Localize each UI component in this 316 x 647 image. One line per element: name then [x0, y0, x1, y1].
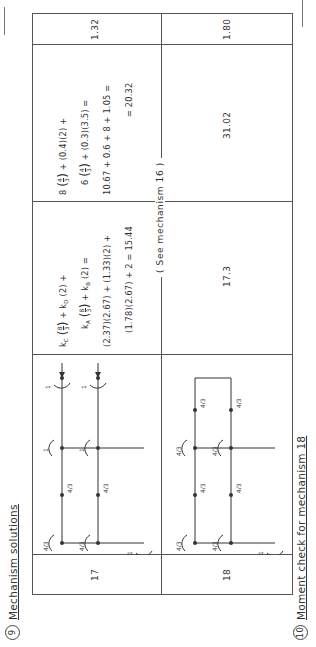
svg-text:4/3: 4/3 — [199, 483, 206, 493]
external-work-line-4: = 20.32 — [124, 83, 134, 117]
table-border-left — [32, 594, 293, 595]
svg-text:1: 1 — [80, 385, 87, 389]
svg-text:4/3: 4/3 — [235, 483, 242, 493]
column-divider — [32, 44, 293, 45]
section-title: Mechanism solutions — [7, 504, 19, 620]
svg-text:4/3: 4/3 — [66, 483, 73, 493]
svg-text:4/3: 4/3 — [211, 446, 218, 456]
see-mechanism-note: ( See mechanism 16 ) — [155, 158, 165, 277]
section-number-badge: 9 — [5, 625, 20, 640]
load-factor-ratio: 1.80 — [222, 19, 232, 40]
section-9-heading: 9Mechanism solutions — [5, 504, 20, 640]
section-number-badge: 10 — [293, 625, 308, 640]
svg-text:4/3: 4/3 — [78, 541, 85, 551]
svg-text:1: 1 — [126, 551, 133, 555]
internal-work-line-2: kA (83) + kB (2) = — [78, 257, 92, 329]
external-work-line-3: 10.67 + 0.6 + 8 + 1.05 = — [102, 85, 112, 195]
svg-text:4/3: 4/3 — [175, 541, 182, 551]
svg-text:4/3: 4/3 — [199, 398, 206, 408]
table-border-bottom — [292, 14, 293, 595]
svg-text:4/3: 4/3 — [211, 541, 218, 551]
internal-work-line-4: (1.78)(2.67) + 2 = 15.44 — [124, 226, 134, 333]
svg-text:1: 1 — [42, 448, 49, 452]
frame-diagram-17: 4/3 4/3 4/3 4/3 1 1 1 1 1 — [32, 355, 161, 555]
section-title: Moment check for mechanism 18 — [295, 436, 307, 620]
load-factor-ratio: 1.32 — [90, 19, 100, 40]
svg-text:4/3: 4/3 — [175, 446, 182, 456]
svg-text:4/3: 4/3 — [235, 398, 242, 408]
table-border-right — [32, 13, 293, 14]
external-work-line-2: 6 (43) + (0.3)(3.5) = — [78, 100, 92, 185]
edge-rule — [4, 7, 5, 35]
edge-rule — [302, 0, 303, 27]
svg-text:1: 1 — [257, 551, 264, 555]
svg-text:4/3: 4/3 — [42, 541, 49, 551]
internal-work-line-3: (2.37)(2.67) + (1.33)(2) + — [102, 235, 112, 347]
external-work-line-1: 8 (43) + (0.4)(2) + — [56, 118, 70, 195]
svg-text:1: 1 — [78, 448, 85, 452]
svg-text:1: 1 — [44, 385, 51, 389]
section-10-heading: 10Moment check for mechanism 18 — [293, 436, 308, 640]
rotated-page: 9Mechanism solutions 10Moment check for … — [0, 0, 316, 647]
external-work-value: 31.02 — [222, 112, 232, 139]
internal-work-line-1: kC (83) + kD (2) + — [56, 274, 70, 347]
mechanism-number: 17 — [90, 569, 100, 581]
internal-work-value: 17.3 — [222, 266, 232, 287]
svg-text:4/3: 4/3 — [102, 483, 109, 493]
frame-diagram-18: 4/3 4/3 4/3 4/3 4/3 4/3 4/3 4/3 1 — [161, 355, 292, 555]
mechanism-number: 18 — [222, 569, 232, 581]
